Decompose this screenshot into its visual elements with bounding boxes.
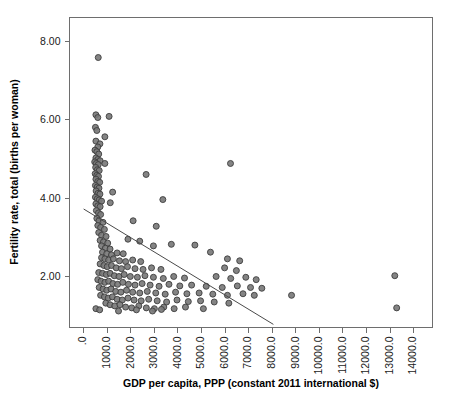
data-point xyxy=(147,282,153,288)
data-point xyxy=(140,266,146,272)
data-point xyxy=(124,264,130,270)
data-point xyxy=(173,289,179,295)
data-point xyxy=(156,283,162,289)
data-point xyxy=(95,55,101,61)
data-point xyxy=(160,197,166,203)
data-point xyxy=(114,250,120,256)
data-point xyxy=(102,160,108,166)
data-point xyxy=(143,171,149,177)
data-point xyxy=(192,242,198,248)
data-point xyxy=(95,115,101,121)
data-point xyxy=(207,249,213,255)
data-point xyxy=(130,257,136,263)
data-point xyxy=(124,287,130,293)
data-point xyxy=(196,290,202,296)
x-tick-label: 13000.0 xyxy=(383,336,395,374)
data-point xyxy=(153,223,159,229)
x-tick-label: 14000.0 xyxy=(406,336,418,374)
data-point xyxy=(177,283,183,289)
data-point xyxy=(219,284,225,290)
data-point xyxy=(213,273,219,279)
data-point xyxy=(392,273,398,279)
data-point xyxy=(158,266,164,272)
data-point xyxy=(203,283,209,289)
data-point xyxy=(120,279,126,285)
x-tick-label: .0 xyxy=(76,336,88,345)
data-point xyxy=(120,251,126,257)
data-point xyxy=(153,290,159,296)
data-point xyxy=(182,275,188,281)
data-point xyxy=(211,299,217,305)
data-point xyxy=(171,306,177,312)
data-point xyxy=(142,273,148,279)
data-point xyxy=(234,283,240,289)
data-point xyxy=(146,296,152,302)
data-point xyxy=(150,274,156,280)
data-point xyxy=(102,134,108,140)
data-point xyxy=(166,281,172,287)
x-tick-label: 5000.0 xyxy=(194,336,206,368)
data-point xyxy=(189,282,195,288)
data-point xyxy=(149,308,155,314)
data-point xyxy=(144,288,150,294)
x-tick-label: 12000.0 xyxy=(359,336,371,374)
x-tick-label: 9000.0 xyxy=(289,336,301,368)
data-point xyxy=(125,295,131,301)
x-axis-ticks: .01000.02000.03000.04000.05000.06000.070… xyxy=(76,328,418,375)
data-point xyxy=(123,304,129,310)
data-point xyxy=(130,218,136,224)
chart-canvas: .01000.02000.03000.04000.05000.06000.070… xyxy=(0,0,451,410)
caption-ghost-strip xyxy=(0,398,451,410)
data-point xyxy=(243,274,249,280)
data-point xyxy=(222,265,228,271)
data-point xyxy=(143,305,149,311)
x-axis-title: GDP per capita, PPP (constant 2011 inter… xyxy=(123,377,379,389)
data-point xyxy=(227,160,233,166)
data-point xyxy=(130,289,136,295)
data-point xyxy=(253,277,259,283)
data-point xyxy=(160,275,166,281)
data-point xyxy=(184,291,190,297)
data-point xyxy=(259,285,265,291)
data-point xyxy=(121,272,127,278)
data-point xyxy=(134,274,140,280)
data-point xyxy=(118,266,124,272)
data-point xyxy=(139,281,145,287)
data-point xyxy=(150,243,156,249)
data-point xyxy=(116,308,122,314)
y-axis-ticks: 2.004.006.008.00 xyxy=(40,35,69,282)
data-point xyxy=(224,256,230,262)
x-tick-label: 3000.0 xyxy=(147,336,159,368)
data-point xyxy=(106,113,112,119)
data-point xyxy=(125,281,131,287)
x-tick-label: 4000.0 xyxy=(171,336,183,368)
data-point xyxy=(248,284,254,290)
data-point xyxy=(127,273,133,279)
scatter-plot-figure: .01000.02000.03000.04000.05000.06000.070… xyxy=(0,0,451,410)
data-point xyxy=(162,291,168,297)
data-point xyxy=(138,259,144,265)
data-point xyxy=(94,128,100,134)
data-point xyxy=(117,302,123,308)
data-point xyxy=(237,258,243,264)
x-tick-label: 2000.0 xyxy=(124,336,136,368)
data-point xyxy=(198,298,204,304)
data-point xyxy=(226,300,232,306)
data-point xyxy=(228,275,234,281)
x-tick-label: 8000.0 xyxy=(265,336,277,368)
data-point xyxy=(171,273,177,279)
data-point xyxy=(137,290,143,296)
data-point xyxy=(118,289,124,295)
data-point xyxy=(185,299,191,305)
data-point xyxy=(131,297,137,303)
data-point xyxy=(101,226,107,232)
data-point xyxy=(174,297,180,303)
x-tick-label: 6000.0 xyxy=(218,336,230,368)
data-point xyxy=(240,291,246,297)
data-point xyxy=(200,306,206,312)
data-point xyxy=(158,306,164,312)
y-tick-label: 2.00 xyxy=(40,270,61,282)
y-tick-label: 6.00 xyxy=(40,113,61,125)
data-point xyxy=(210,291,216,297)
data-point xyxy=(149,265,155,271)
